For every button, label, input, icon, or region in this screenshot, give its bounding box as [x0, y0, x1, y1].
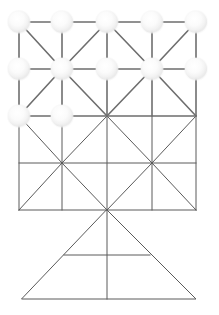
figure-container — [0, 0, 219, 315]
figure-background — [0, 0, 219, 315]
lattice-node-n-2-1[interactable] — [50, 104, 75, 129]
node-sphere — [51, 105, 73, 127]
lattice-node-n-0-2[interactable] — [95, 10, 120, 35]
node-sphere — [96, 11, 118, 33]
node-sphere — [96, 58, 118, 80]
node-sphere — [185, 11, 207, 33]
node-sphere — [185, 58, 207, 80]
lattice-node-n-0-4[interactable] — [184, 10, 209, 35]
lattice-node-n-1-2[interactable] — [95, 57, 120, 82]
node-sphere — [8, 11, 30, 33]
lattice-node-n-0-1[interactable] — [50, 10, 75, 35]
lattice-diagram — [0, 0, 219, 315]
node-sphere — [51, 58, 73, 80]
lattice-node-n-1-1[interactable] — [50, 57, 75, 82]
node-sphere — [141, 58, 163, 80]
node-sphere — [8, 105, 30, 127]
node-sphere — [51, 11, 73, 33]
node-sphere — [8, 58, 30, 80]
lattice-node-n-1-4[interactable] — [184, 57, 209, 82]
lattice-node-n-1-3[interactable] — [140, 57, 165, 82]
lattice-node-n-0-3[interactable] — [140, 10, 165, 35]
lattice-node-n-0-0[interactable] — [7, 10, 32, 35]
lattice-node-n-2-0[interactable] — [7, 104, 32, 129]
lattice-node-n-1-0[interactable] — [7, 57, 32, 82]
node-sphere — [141, 11, 163, 33]
